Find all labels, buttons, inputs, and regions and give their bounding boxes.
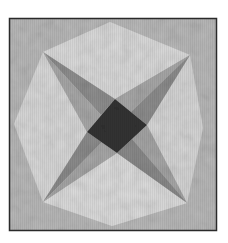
vertical-texture xyxy=(9,18,217,231)
quilt-block-image xyxy=(0,0,228,243)
